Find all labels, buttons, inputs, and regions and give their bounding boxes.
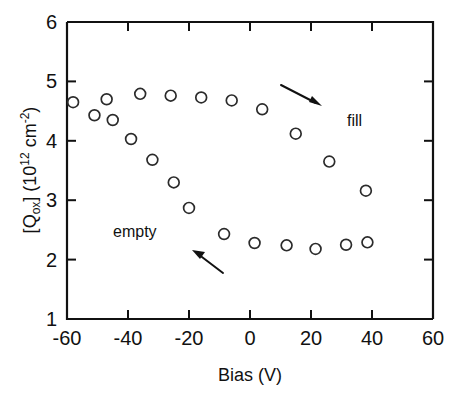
y-title-tail: ) [20, 107, 40, 113]
x-axis-ticks [67, 22, 433, 319]
x-tick-label: -20 [175, 327, 204, 349]
data-point [196, 92, 207, 103]
data-point [107, 115, 118, 126]
annotation-fill: fill [347, 112, 362, 129]
data-point [135, 88, 146, 99]
y-tick-label: 2 [46, 249, 57, 271]
empty-arrow [192, 250, 223, 273]
y-axis-ticks [67, 22, 433, 319]
y-tick-label: 5 [46, 70, 57, 92]
y-title-close: ] (10 [20, 166, 40, 202]
data-point [324, 156, 335, 167]
fill-arrow [281, 85, 322, 106]
data-point [362, 237, 373, 248]
data-point [68, 97, 79, 108]
data-point [126, 134, 137, 145]
axis-spines [67, 22, 433, 319]
y-title-exponent: 12 [18, 152, 32, 166]
plot-frame [67, 22, 433, 319]
data-point [249, 238, 260, 249]
y-tick-label: 6 [46, 11, 57, 33]
data-point [281, 240, 292, 251]
y-axis-tick-labels: 123456 [46, 11, 57, 330]
data-point [147, 154, 158, 165]
scatter-plot: -60-40-200204060 123456 fill empty Bias … [0, 0, 462, 413]
data-point [101, 94, 112, 105]
y-title-units-exponent: -2 [18, 112, 32, 123]
y-tick-label: 1 [46, 308, 57, 330]
data-point [168, 177, 179, 188]
data-point [341, 239, 352, 250]
data-point [165, 90, 176, 101]
annotation-empty: empty [113, 223, 157, 240]
x-axis-title: Bias (V) [218, 365, 282, 385]
x-tick-label: 20 [300, 327, 322, 349]
series-fill [68, 88, 372, 213]
data-point [219, 229, 230, 240]
y-tick-label: 4 [46, 130, 57, 152]
x-tick-label: 40 [361, 327, 383, 349]
series-empty [219, 229, 373, 255]
x-tick-label: 60 [422, 327, 444, 349]
data-point [89, 110, 100, 121]
data-point [184, 203, 195, 214]
y-title-units: cm [20, 123, 40, 152]
x-tick-label: -40 [114, 327, 143, 349]
x-tick-label: -60 [53, 327, 82, 349]
data-point [361, 185, 372, 196]
y-tick-label: 3 [46, 189, 57, 211]
data-point [226, 95, 237, 106]
empty-arrow-shaft [198, 254, 223, 273]
axis-spines-top-right [67, 22, 433, 319]
x-tick-label: 0 [244, 327, 255, 349]
data-point [290, 128, 301, 139]
fill-arrow-head [309, 96, 322, 106]
svg-text:[Qox] (1012 cm-2): [Qox] (1012 cm-2) [18, 107, 43, 234]
data-point [257, 104, 268, 115]
y-title-subscript: ox [29, 202, 43, 215]
y-title-open: [Q [20, 214, 40, 233]
x-axis-tick-labels: -60-40-200204060 [53, 327, 445, 349]
data-point [310, 244, 321, 255]
y-axis-title: [Qox] (1012 cm-2) [18, 107, 43, 234]
chart-figure: -60-40-200204060 123456 fill empty Bias … [0, 0, 462, 413]
